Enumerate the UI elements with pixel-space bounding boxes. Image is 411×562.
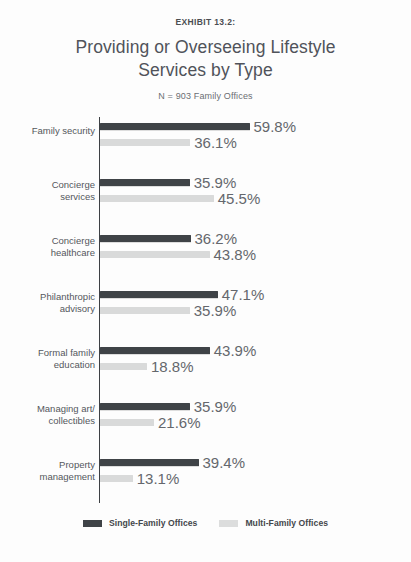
category-label-line: Concierge	[0, 179, 95, 191]
legend-swatch-icon	[219, 520, 238, 527]
bar-sfo	[100, 347, 210, 354]
bar-value-label: 36.1%	[194, 135, 237, 150]
legend-item[interactable]: Single-Family Offices	[83, 518, 197, 528]
chart-row: Conciergehealthcare36.2%43.8%	[0, 229, 411, 285]
bar-value-label: 36.2%	[195, 231, 238, 246]
bar-mfo	[100, 139, 190, 146]
legend-label: Single-Family Offices	[109, 518, 197, 528]
bar-value-label: 39.4%	[203, 455, 246, 470]
bar-mfo	[100, 475, 133, 482]
bar-sfo	[100, 459, 199, 466]
chart-plot-area: Family security59.8%36.1%Conciergeservic…	[0, 117, 411, 517]
category-label-line: education	[0, 359, 95, 371]
bar-mfo	[100, 307, 190, 314]
category-label-line: Concierge	[0, 235, 95, 247]
category-label-line: Philanthropic	[0, 291, 95, 303]
category-label-line: Managing art/	[0, 403, 95, 415]
bar-mfo	[100, 251, 210, 258]
chart-row: Managing art/collectibles35.9%21.6%	[0, 397, 411, 453]
legend-swatch-icon	[83, 520, 102, 527]
chart-rows: Family security59.8%36.1%Conciergeservic…	[0, 117, 411, 509]
category-label: Family security	[0, 125, 95, 137]
chart-row: Propertymanagement39.4%13.1%	[0, 453, 411, 509]
page-title: Providing or Overseeing Lifestyle Servic…	[0, 36, 411, 82]
exhibit-label: EXHIBIT 13.2:	[0, 17, 411, 27]
category-label-line: management	[0, 471, 95, 483]
chart-title-line-1: Providing or Overseeing Lifestyle	[0, 36, 411, 59]
category-label-line: Property	[0, 459, 95, 471]
bar-sfo	[100, 291, 218, 298]
chart-row: Formal familyeducation43.9%18.8%	[0, 341, 411, 397]
chart-legend: Single-Family OfficesMulti-Family Office…	[0, 518, 411, 528]
bar-value-label: 59.8%	[254, 119, 297, 134]
bar-sfo	[100, 235, 191, 242]
category-label: Propertymanagement	[0, 459, 95, 482]
bar-value-label: 35.9%	[194, 303, 237, 318]
category-label: Philanthropicadvisory	[0, 291, 95, 314]
category-label-line: collectibles	[0, 415, 95, 427]
bar-sfo	[100, 403, 190, 410]
bar-value-label: 21.6%	[158, 415, 201, 430]
category-label: Managing art/collectibles	[0, 403, 95, 426]
bar-value-label: 18.8%	[151, 359, 194, 374]
category-label: Conciergeservices	[0, 179, 95, 202]
bar-sfo	[100, 179, 190, 186]
bar-sfo	[100, 123, 250, 130]
chart-title-line-2: Services by Type	[0, 59, 411, 82]
category-label-line: healthcare	[0, 247, 95, 259]
chart-row: Family security59.8%36.1%	[0, 117, 411, 173]
chart-row: Conciergeservices35.9%45.5%	[0, 173, 411, 229]
chart-subtitle: N = 903 Family Offices	[0, 91, 411, 101]
bar-value-label: 43.8%	[214, 247, 257, 262]
legend-item[interactable]: Multi-Family Offices	[219, 518, 328, 528]
category-label-line: advisory	[0, 303, 95, 315]
bar-mfo	[100, 363, 147, 370]
bar-value-label: 45.5%	[218, 191, 261, 206]
bar-mfo	[100, 195, 214, 202]
bar-value-label: 43.9%	[214, 343, 257, 358]
chart-row: Philanthropicadvisory47.1%35.9%	[0, 285, 411, 341]
bar-value-label: 13.1%	[137, 471, 180, 486]
bar-mfo	[100, 419, 154, 426]
category-label-line: Family security	[0, 125, 95, 137]
category-label: Conciergehealthcare	[0, 235, 95, 258]
bar-value-label: 35.9%	[194, 175, 237, 190]
bar-value-label: 35.9%	[194, 399, 237, 414]
bar-value-label: 47.1%	[222, 287, 265, 302]
chart-header: EXHIBIT 13.2: Providing or Overseeing Li…	[0, 0, 411, 101]
category-label: Formal familyeducation	[0, 347, 95, 370]
category-label-line: services	[0, 191, 95, 203]
category-label-line: Formal family	[0, 347, 95, 359]
legend-label: Multi-Family Offices	[245, 518, 328, 528]
chart-page: EXHIBIT 13.2: Providing or Overseeing Li…	[0, 0, 411, 562]
